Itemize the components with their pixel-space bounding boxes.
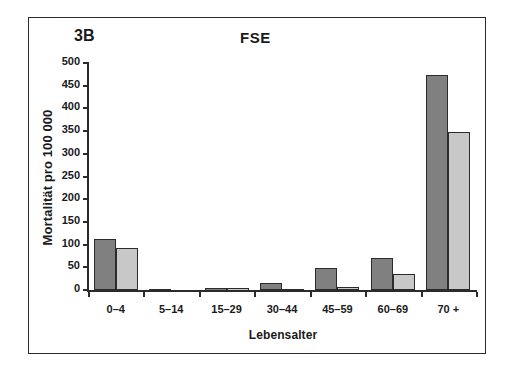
bar bbox=[227, 288, 249, 290]
bar bbox=[260, 283, 282, 290]
x-tick-mark bbox=[199, 292, 201, 297]
figure-root: 3B FSE Mortalität pro 100 000 Lebensalte… bbox=[0, 0, 511, 371]
x-tick-mark bbox=[476, 292, 478, 297]
bar bbox=[448, 132, 470, 290]
x-tick-label: 15–29 bbox=[211, 303, 242, 315]
bar bbox=[116, 248, 138, 290]
x-tick-label: 60–69 bbox=[378, 303, 409, 315]
bar bbox=[282, 289, 304, 290]
bar bbox=[393, 274, 415, 290]
x-tick-mark bbox=[88, 292, 90, 297]
bar bbox=[371, 258, 393, 290]
x-tick-label: 70 + bbox=[437, 303, 459, 315]
x-tick-mark bbox=[421, 292, 423, 297]
plot-area bbox=[88, 63, 476, 290]
bar bbox=[94, 239, 116, 290]
x-tick-label: 5–14 bbox=[159, 303, 183, 315]
bar bbox=[337, 287, 359, 290]
bar bbox=[149, 289, 171, 290]
bar bbox=[426, 75, 448, 290]
x-tick-mark bbox=[310, 292, 312, 297]
bar bbox=[315, 268, 337, 290]
x-tick-mark bbox=[143, 292, 145, 297]
x-tick-label: 30–44 bbox=[267, 303, 298, 315]
x-tick-label: 45–59 bbox=[322, 303, 353, 315]
bar bbox=[205, 288, 227, 290]
x-tick-mark bbox=[365, 292, 367, 297]
x-tick-mark bbox=[254, 292, 256, 297]
x-tick-label: 0–4 bbox=[107, 303, 125, 315]
